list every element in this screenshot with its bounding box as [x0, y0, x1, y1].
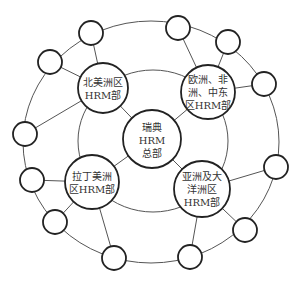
outer-node [13, 122, 37, 146]
outer-node [102, 246, 126, 270]
outer-node [264, 155, 288, 179]
region-label-line: 欧洲、非 [188, 74, 228, 85]
hq-label-line: 瑞典 [142, 121, 162, 133]
region-label-line: 区HRM部 [185, 99, 232, 111]
hrm-network-diagram: 北美洲区 HRM部 欧洲、非 洲、中东 区HRM部 拉丁美洲 区HRM部 亚洲及… [0, 0, 301, 285]
hq-node: 瑞典 HRM 总部 [123, 110, 181, 168]
region-label-line: 区HRM部 [69, 183, 116, 195]
outer-node [216, 30, 240, 54]
region-label-line: 洋洲区 [187, 183, 217, 195]
outer-node [20, 168, 44, 192]
outer-node [79, 21, 103, 45]
region-node-asia-pacific: 亚洲及大 洋洲区 HRM部 [174, 161, 230, 217]
region-label-line: 拉丁美洲 [72, 170, 112, 182]
region-node-north-america: 北美洲区 HRM部 [78, 63, 128, 113]
outer-node [166, 16, 190, 40]
region-node-latin-america: 拉丁美洲 区HRM部 [65, 155, 119, 209]
region-label-line: HRM部 [85, 89, 122, 101]
outer-node [233, 218, 257, 242]
region-label-line: 北美洲区 [83, 76, 123, 88]
outer-node [43, 210, 67, 234]
region-label-line: HRM部 [184, 196, 221, 208]
region-label-line: 洲、中东 [188, 86, 228, 98]
outer-node [38, 50, 62, 74]
outer-node [178, 245, 202, 269]
hq-label-line: 总部 [142, 147, 162, 159]
region-node-emea: 欧洲、非 洲、中东 区HRM部 [181, 65, 235, 119]
hq-label-line: HRM [139, 135, 166, 146]
outer-node [252, 72, 276, 96]
region-label-line: 亚洲及大 [182, 170, 222, 182]
